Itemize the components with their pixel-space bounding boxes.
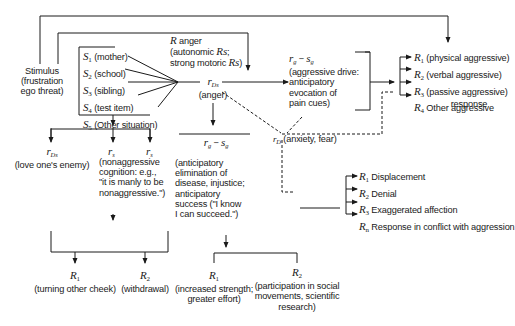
r-d-anxiety: rD (anxiety, fear) <box>273 134 337 147</box>
r-ds-label: (anger) <box>196 90 230 100</box>
stimulus-item: S3 (sibling) <box>83 84 157 101</box>
stimulus-item: S1 (mother) <box>83 50 157 67</box>
r-anger-line3: strong motoric <box>170 58 229 68</box>
r2-withdrawal: R2 (withdrawal) <box>115 270 175 294</box>
r-ds-love: rDs (love one's enemy) <box>14 146 90 170</box>
conflict-item: R2 Denial <box>359 187 515 204</box>
response-item: R2 (verbal aggressive) <box>414 68 510 85</box>
rg-sg-middle: rg − sg <box>196 137 236 151</box>
r-anger-text: anger <box>179 36 202 46</box>
response-4-line2: response <box>429 100 509 109</box>
stimulus-item: S5 (Other situation) <box>83 118 157 135</box>
r-anger-symbol: R <box>170 34 177 46</box>
stimulus-item: S4 (test item) <box>83 101 157 118</box>
stimulus-line3: ego threat) <box>14 86 70 96</box>
r1-increased-strength: R1 (increased strength; greater effort) <box>172 270 256 305</box>
conflict-item: R1 Displacement <box>359 170 515 187</box>
stimulus-label: Stimulus (frustration ego threat) <box>14 66 70 97</box>
conflict-item: Rn Response in conflict with aggression <box>359 220 515 237</box>
r-ds-sub: Ds <box>212 81 219 88</box>
stimulus-item: S2 (school) <box>83 67 157 84</box>
r1-turning-cheek: R1 (turning other cheek) <box>30 270 120 294</box>
conflict-responses: R1 Displacement R2 Denial R3 Exaggerated… <box>359 170 515 236</box>
r-ds-anger: rDs (anger) <box>196 76 230 100</box>
r-anger-line3-sym: Rs <box>229 56 240 68</box>
stimuli-box: S1 (mother) S2 (school) S3 (sibling) S4 … <box>83 50 157 135</box>
r-anger-label: R anger (autonomic Rs; strong motoric Rs… <box>170 35 242 69</box>
love-enemy-label: (love one's enemy) <box>14 160 90 170</box>
rg-sg-line3: anticipatory <box>289 77 359 87</box>
rg-sg-aggressive-drive: rg − sg (aggressive drive: anticipatory … <box>289 53 359 108</box>
conflict-item: R3 Exaggerated affection <box>359 203 515 220</box>
nonaggressive-cognition: (nonaggressive cognition: e.g., "it is m… <box>99 157 165 198</box>
response-item: R1 (physical aggressive) <box>414 51 510 68</box>
r2-participation: R2 (participation in social movements, s… <box>249 267 345 312</box>
stimulus-line2: (frustration <box>14 76 70 86</box>
stimulus-line1: Stimulus <box>14 66 70 76</box>
r-anger-line2: (autonomic <box>170 47 216 57</box>
rg-sg-line5: pain cues) <box>289 98 359 108</box>
anticipatory-elimination: (anticipatory elimination of disease, in… <box>175 158 245 219</box>
rg-sg-line4: evocation of <box>289 88 359 98</box>
r-anger-line3-end: ) <box>239 58 242 68</box>
rg-sg-line2: (aggressive drive: <box>289 67 359 77</box>
r-anger-line2-sym: Rs <box>216 45 227 57</box>
